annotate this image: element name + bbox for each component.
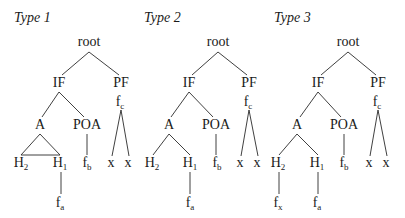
tree-edge xyxy=(378,110,387,156)
tree-edge xyxy=(321,52,348,75)
tree-edge xyxy=(89,52,119,75)
tree-edge xyxy=(153,134,169,155)
tree-edge xyxy=(318,92,341,117)
node-fc: fc xyxy=(116,94,125,111)
tree-edge xyxy=(249,110,258,156)
node-root: root xyxy=(78,34,101,49)
tree-edge xyxy=(370,110,378,156)
tree-edge xyxy=(59,92,84,117)
node-x1: x xyxy=(366,155,373,170)
tree-edge xyxy=(121,110,129,156)
node-x2: x xyxy=(383,155,390,170)
node-H1: H1 xyxy=(183,155,198,172)
tree-edge xyxy=(218,52,247,75)
node-H2: H2 xyxy=(145,155,160,172)
node-A: A xyxy=(164,117,175,132)
node-PF: PF xyxy=(370,75,386,90)
node-H2: H2 xyxy=(14,155,29,172)
tree-edge xyxy=(40,134,60,155)
tree-diagrams: Type 1rootIFPFfcAPOAH2H1fbxxfaType 2root… xyxy=(0,0,405,218)
tree-edge xyxy=(21,134,40,155)
node-H1: H1 xyxy=(310,155,325,172)
diagram-canvas: Type 1rootIFPFfcAPOAH2H1fbxxfaType 2root… xyxy=(0,0,405,218)
tree-edge xyxy=(192,52,218,75)
tree-type-2: Type 2rootIFPFfcAPOAH2H1fbxxfa xyxy=(144,10,261,212)
tree-edge xyxy=(241,110,249,156)
node-IF: IF xyxy=(53,75,66,90)
node-fa: fa xyxy=(313,195,322,212)
node-fb: fb xyxy=(339,155,349,172)
node-root: root xyxy=(337,34,360,49)
node-POA: POA xyxy=(73,117,102,132)
node-fa: fa xyxy=(186,195,195,212)
tree-edge xyxy=(300,92,318,117)
tree-edge xyxy=(279,134,297,155)
node-fx: fx xyxy=(273,195,283,212)
node-POA: POA xyxy=(330,117,359,132)
node-fb: fb xyxy=(82,155,92,172)
node-PF: PF xyxy=(113,75,129,90)
tree-label: Type 1 xyxy=(14,10,51,25)
node-x2: x xyxy=(125,155,132,170)
node-fc: fc xyxy=(373,94,382,111)
tree-label: Type 3 xyxy=(274,10,311,25)
node-IF: IF xyxy=(312,75,325,90)
node-root: root xyxy=(207,34,230,49)
node-fa: fa xyxy=(56,195,65,212)
tree-edge xyxy=(297,134,318,155)
tree-type-1: Type 1rootIFPFfcAPOAH2H1fbxxfa xyxy=(14,10,132,212)
node-IF: IF xyxy=(183,75,196,90)
node-H1: H1 xyxy=(53,155,68,172)
tree-edge xyxy=(348,52,376,75)
node-A: A xyxy=(292,117,303,132)
node-fc: fc xyxy=(244,94,253,111)
tree-edge xyxy=(42,92,59,117)
node-PF: PF xyxy=(241,75,257,90)
tree-edge xyxy=(169,134,190,155)
node-x1: x xyxy=(237,155,244,170)
tree-type-3: Type 3rootIFPFfcAPOAH2H1fbxxfxfa xyxy=(271,10,390,212)
tree-edge xyxy=(112,110,121,156)
node-x1: x xyxy=(108,155,115,170)
node-x2: x xyxy=(254,155,261,170)
tree-edge xyxy=(62,52,89,75)
tree-edge xyxy=(171,92,189,117)
node-POA: POA xyxy=(202,117,231,132)
node-A: A xyxy=(35,117,46,132)
tree-edge xyxy=(189,92,213,117)
node-fb: fb xyxy=(212,155,222,172)
tree-label: Type 2 xyxy=(144,10,181,25)
node-H2: H2 xyxy=(271,155,286,172)
